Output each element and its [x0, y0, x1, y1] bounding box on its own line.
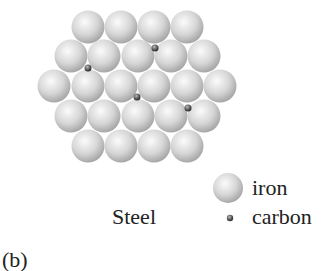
iron-atoms: [38, 11, 237, 163]
iron-atom: [138, 70, 171, 103]
legend-iron-icon: [213, 173, 243, 203]
legend-carbon-label: carbon: [252, 206, 312, 228]
iron-atom: [55, 100, 88, 133]
iron-atom: [38, 70, 71, 103]
carbon-atom: [185, 105, 192, 112]
material-label: Steel: [112, 206, 156, 228]
carbon-atom: [152, 45, 159, 52]
iron-atom: [138, 130, 171, 163]
iron-atom: [105, 11, 138, 44]
iron-atom: [88, 100, 121, 133]
iron-atom: [122, 40, 155, 73]
iron-atom: [105, 70, 138, 103]
iron-atom: [88, 40, 121, 73]
legend-iron-label: iron: [252, 177, 287, 199]
iron-atom: [171, 11, 204, 44]
iron-atom: [155, 100, 188, 133]
legend-symbols: [213, 173, 243, 221]
iron-atom: [122, 100, 155, 133]
carbon-atom: [134, 94, 141, 101]
iron-atom: [171, 70, 204, 103]
iron-atom: [171, 130, 204, 163]
legend-carbon-icon: [227, 215, 233, 221]
carbon-atom: [85, 65, 92, 72]
iron-atom: [155, 40, 188, 73]
iron-atom: [188, 100, 221, 133]
panel-label: (b): [2, 249, 28, 271]
steel-lattice-diagram: [0, 0, 334, 271]
iron-atom: [188, 40, 221, 73]
iron-atom: [138, 11, 171, 44]
iron-atom: [105, 130, 138, 163]
iron-atom: [204, 70, 237, 103]
iron-atom: [72, 130, 105, 163]
iron-atom: [55, 40, 88, 73]
iron-atom: [72, 11, 105, 44]
iron-atom: [72, 70, 105, 103]
